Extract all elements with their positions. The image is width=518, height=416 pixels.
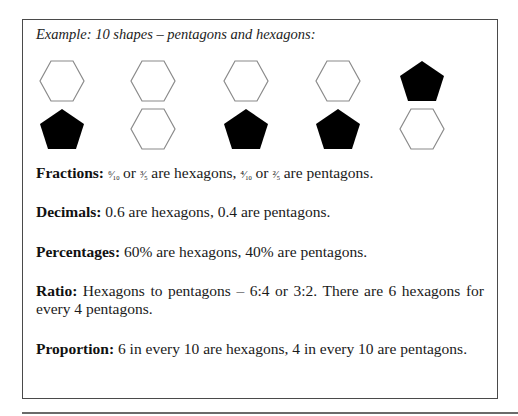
or-text: or: [119, 164, 140, 181]
decimals-label: Decimals:: [36, 203, 101, 220]
ratio-paragraph: Ratio: Hexagons to pentagons – 6:4 or 3:…: [36, 282, 484, 318]
fractions-paragraph: Fractions: ⁶⁄₁₀ or ³⁄₅ are hexagons, ⁴⁄₁…: [36, 164, 484, 183]
pentagon-icon: [399, 60, 445, 102]
hexagon-icon: [315, 60, 361, 102]
pentagon-icon: [39, 108, 85, 150]
hexagon-icon: [130, 60, 176, 102]
hexagon-icon: [223, 60, 269, 102]
decimals-text: 0.6 are hexagons, 0.4 are pentagons.: [101, 203, 330, 220]
hexagon-icon: [399, 108, 445, 150]
pentagons-text: are pentagons.: [280, 164, 373, 181]
percentages-label: Percentages:: [36, 243, 120, 260]
fraction-six-tenths: ⁶⁄₁₀: [108, 168, 119, 180]
proportion-label: Proportion:: [36, 340, 114, 357]
or-text: or: [252, 164, 273, 181]
hexagon-icon: [39, 60, 85, 102]
decimals-paragraph: Decimals: 0.6 are hexagons, 0.4 are pent…: [36, 203, 484, 221]
pentagon-icon: [223, 108, 269, 150]
proportion-text: 6 in every 10 are hexagons, 4 in every 1…: [114, 340, 467, 357]
pentagon-icon: [315, 108, 361, 150]
hexagons-text: are hexagons,: [147, 164, 240, 181]
percentages-paragraph: Percentages: 60% are hexagons, 40% are p…: [36, 243, 484, 261]
fraction-four-tenths: ⁴⁄₁₀: [240, 168, 251, 180]
ratio-label: Ratio:: [36, 282, 77, 299]
fraction-two-fifths: ²⁄₅: [272, 168, 279, 180]
hexagon-icon: [130, 108, 176, 150]
proportion-paragraph: Proportion: 6 in every 10 are hexagons, …: [36, 340, 484, 358]
percentages-text: 60% are hexagons, 40% are pentagons.: [120, 243, 367, 260]
example-box: Example: 10 shapes – pentagons and hexag…: [22, 19, 498, 399]
example-caption: Example: 10 shapes – pentagons and hexag…: [36, 26, 315, 43]
bottom-divider: [22, 412, 518, 414]
ratio-text: Hexagons to pentagons – 6:4 or 3:2. Ther…: [36, 282, 484, 317]
fractions-label: Fractions:: [36, 164, 104, 181]
